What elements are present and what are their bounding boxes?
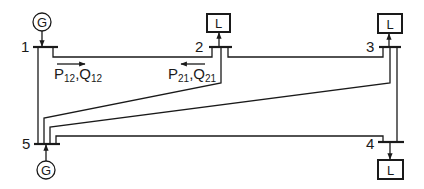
flow-label-p21-q21: P21,Q21 bbox=[168, 64, 217, 84]
svg-text:P12,Q12: P12,Q12 bbox=[54, 65, 103, 84]
bus-label-3: 3 bbox=[366, 38, 374, 55]
svg-text:P21,Q21: P21,Q21 bbox=[168, 65, 217, 84]
flow-label-p12-q12: P12,Q12 bbox=[54, 64, 103, 84]
generator-icon: G bbox=[33, 13, 51, 46]
bus-2: 2 L bbox=[195, 14, 232, 55]
load-icon: L bbox=[378, 143, 403, 179]
bus-label-5: 5 bbox=[22, 135, 30, 152]
load-icon: L bbox=[207, 14, 230, 46]
line-2-5 bbox=[44, 47, 221, 144]
svg-text:L: L bbox=[215, 16, 222, 31]
line-5-4 bbox=[56, 136, 383, 144]
bus-4: 4 L bbox=[366, 135, 404, 179]
bus-label-4: 4 bbox=[366, 135, 374, 152]
bus-5: 5 G bbox=[22, 135, 60, 179]
line-1-2 bbox=[53, 47, 212, 57]
line-2-3 bbox=[228, 47, 383, 57]
line-3-5 bbox=[50, 47, 390, 144]
power-system-diagram: 1 G 2 L 3 L 4 L bbox=[0, 0, 424, 189]
svg-text:L: L bbox=[387, 163, 394, 178]
svg-text:G: G bbox=[41, 163, 51, 178]
generator-icon: G bbox=[37, 145, 55, 179]
svg-text:L: L bbox=[386, 17, 393, 32]
svg-text:G: G bbox=[37, 15, 47, 30]
bus-label-2: 2 bbox=[195, 38, 203, 55]
load-icon: L bbox=[378, 14, 402, 46]
bus-label-1: 1 bbox=[21, 38, 29, 55]
